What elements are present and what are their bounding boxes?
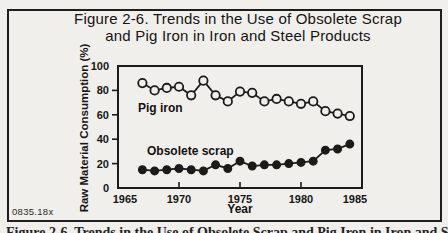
marker-open-circle bbox=[211, 91, 219, 99]
y-tick-label: 100 bbox=[91, 60, 109, 72]
marker-open-circle bbox=[224, 97, 232, 105]
marker-open-circle bbox=[309, 97, 317, 105]
marker-filled-circle bbox=[273, 161, 280, 168]
marker-filled-circle bbox=[212, 161, 219, 168]
plate-code: 0835.18x bbox=[12, 206, 54, 217]
marker-filled-circle bbox=[346, 140, 353, 147]
marker-open-circle bbox=[272, 95, 280, 103]
marker-filled-circle bbox=[310, 158, 317, 165]
marker-open-circle bbox=[248, 89, 256, 97]
marker-filled-circle bbox=[322, 147, 329, 154]
marker-open-circle bbox=[199, 76, 207, 84]
marker-open-circle bbox=[150, 86, 158, 94]
marker-filled-circle bbox=[151, 167, 158, 174]
x-axis-title: Year bbox=[118, 202, 362, 216]
marker-open-circle bbox=[138, 79, 146, 87]
marker-filled-circle bbox=[236, 158, 243, 165]
y-tick-label: 80 bbox=[97, 84, 109, 96]
y-tick-label: 40 bbox=[97, 133, 109, 145]
marker-open-circle bbox=[346, 112, 354, 120]
marker-open-circle bbox=[285, 97, 293, 105]
marker-open-circle bbox=[260, 97, 268, 105]
marker-filled-circle bbox=[163, 166, 170, 173]
marker-open-circle bbox=[187, 91, 195, 99]
marker-filled-circle bbox=[261, 161, 268, 168]
marker-open-circle bbox=[163, 84, 171, 92]
marker-open-circle bbox=[297, 100, 305, 108]
marker-open-circle bbox=[236, 87, 244, 95]
marker-filled-circle bbox=[297, 159, 304, 166]
marker-filled-circle bbox=[175, 165, 182, 172]
marker-open-circle bbox=[333, 109, 341, 117]
marker-open-circle bbox=[321, 107, 329, 115]
marker-open-circle bbox=[175, 83, 183, 91]
y-tick-label: 0 bbox=[103, 182, 109, 194]
y-tick-label: 60 bbox=[97, 109, 109, 121]
marker-filled-circle bbox=[139, 166, 146, 173]
line-chart-plot-area: 02040608010019651970197519801985 bbox=[0, 0, 448, 233]
marker-filled-circle bbox=[249, 162, 256, 169]
marker-filled-circle bbox=[224, 165, 231, 172]
marker-filled-circle bbox=[188, 166, 195, 173]
series-label-pig-iron: Pig iron bbox=[138, 101, 183, 115]
page-caption-cropped: Figure 2-6. Trends in the Use of Obsolet… bbox=[6, 225, 448, 233]
marker-filled-circle bbox=[334, 145, 341, 152]
series-label-obsolete-scrap: Obsolete scrap bbox=[147, 144, 234, 158]
marker-filled-circle bbox=[285, 160, 292, 167]
y-tick-label: 20 bbox=[97, 158, 109, 170]
marker-filled-circle bbox=[200, 167, 207, 174]
